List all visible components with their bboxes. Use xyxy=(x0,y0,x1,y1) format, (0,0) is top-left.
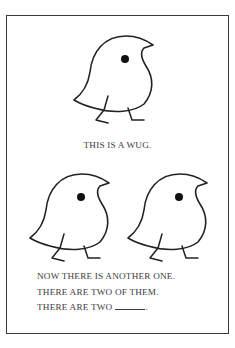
wug-bird-icon-single xyxy=(74,36,153,123)
caption-single-wug: THIS IS A WUG. xyxy=(0,141,235,150)
wug-bird-icon-right xyxy=(128,174,207,261)
caption-line-3: THERE ARE TWO. xyxy=(37,302,148,312)
caption-line-1: NOW THERE IS ANOTHER ONE. xyxy=(37,272,175,281)
caption-line-3-text: THERE ARE TWO xyxy=(37,302,112,312)
caption-line-2: THERE ARE TWO OF THEM. xyxy=(37,288,159,297)
blank-period: . xyxy=(145,302,148,312)
fill-in-blank xyxy=(115,302,145,310)
wug-bird-icon-left xyxy=(30,174,109,261)
